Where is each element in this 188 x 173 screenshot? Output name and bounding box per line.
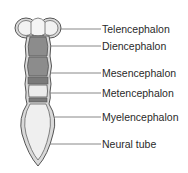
label-metencephalon: Metencephalon: [102, 87, 174, 99]
label-myelencephalon: Myelencephalon: [102, 111, 178, 123]
leader-lines: [50, 29, 101, 144]
mesencephalon-lumen: [28, 57, 49, 76]
label-neural-tube: Neural tube: [102, 138, 156, 150]
label-diencephalon: Diencephalon: [102, 40, 166, 52]
isthmus-band: [28, 77, 48, 84]
label-telencephalon: Telencephalon: [102, 23, 170, 35]
diencephalon-lumen: [28, 37, 48, 56]
neural-tube-diagram: Telencephalon Diencephalon Mesencephalon…: [0, 0, 188, 173]
label-mesencephalon: Mesencephalon: [102, 67, 176, 79]
metencephalon-lumen: [29, 85, 48, 97]
telencephalon-vesicles: [15, 18, 61, 38]
